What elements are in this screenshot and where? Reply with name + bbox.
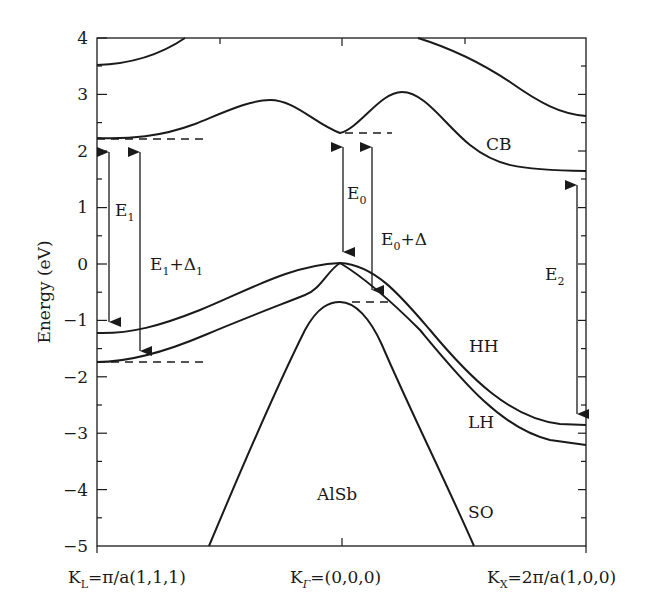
y-tick-neg1: −1 [63,310,88,330]
plot-frame [97,38,586,546]
y-tick-labels: 4 3 2 1 0 −1 −2 −3 −4 −5 [63,28,88,556]
y-tick-0: 0 [77,254,88,274]
upper-cb-right [418,38,586,116]
hh-band [97,263,586,425]
lh-label: LH [468,412,494,432]
lh-band [97,263,586,445]
x-label-L: KL=π/a(1,1,1) [68,567,186,591]
y-tick-neg2: −2 [63,367,88,387]
material-label: AlSb [316,484,357,504]
e0-delta-label: E0+Δ [381,229,427,253]
cb-band [97,92,586,171]
e1-label: E1 [115,200,134,224]
x-label-X: KX=2π/a(1,0,0) [487,567,616,591]
y-tick-2: 2 [77,141,88,161]
hh-label: HH [469,336,499,356]
y-tick-4: 4 [77,28,88,48]
upper-cb-left [97,38,185,65]
so-band [209,302,474,546]
so-label: SO [468,502,494,522]
y-tick-3: 3 [77,84,88,104]
y-tick-neg5: −5 [63,536,88,556]
e0-label: E0 [347,183,366,207]
cb-label: CB [486,134,512,154]
e2-label: E2 [545,264,564,288]
band-structure-figure: 4 3 2 1 0 −1 −2 −3 −4 −5 Energy (eV) KL=… [0,0,656,614]
y-tick-neg3: −3 [63,423,88,443]
y-tick-neg4: −4 [63,480,88,500]
e1-delta1-label: E1+Δ1 [150,254,203,278]
y-tick-1: 1 [77,197,88,217]
y-axis-ticks [97,38,586,553]
x-label-Gamma: KΓ=(0,0,0) [290,567,381,591]
y-axis-label: Energy (eV) [34,240,54,343]
